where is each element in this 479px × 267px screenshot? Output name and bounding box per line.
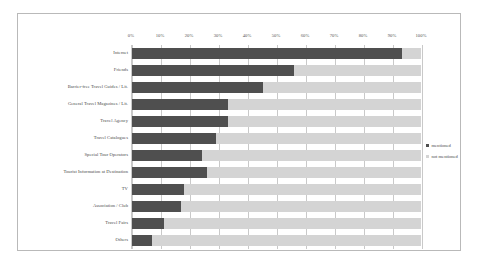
bar-segment-not-mentioned <box>262 82 422 93</box>
bar-segment-mentioned <box>132 99 228 110</box>
bar-segment-not-mentioned <box>183 184 421 195</box>
bar-segment-not-mentioned <box>180 201 421 212</box>
y-axis-category-labels: InternetFriendsBarrier-free Travel Guide… <box>36 45 128 249</box>
x-tick-label: 40% <box>243 33 252 38</box>
category-label: Others <box>36 237 128 242</box>
chart-page: 0%10%20%30%40%50%60%70%80%90%100% Intern… <box>0 0 479 267</box>
table-row <box>132 164 421 181</box>
bar-segment-mentioned <box>132 65 294 76</box>
table-row <box>132 198 421 215</box>
category-label: Travel Catalogues <box>36 135 128 140</box>
table-row <box>132 215 421 232</box>
category-label: General Travel Magazines / Lit. <box>36 101 128 106</box>
bar-segment-not-mentioned <box>401 48 421 59</box>
x-tick-label: 80% <box>359 33 368 38</box>
table-row <box>132 181 421 198</box>
x-axis-tick-labels: 0%10%20%30%40%50%60%70%80%90%100% <box>131 33 421 43</box>
bar-segment-mentioned <box>132 82 263 93</box>
category-label: Travel Fairs <box>36 220 128 225</box>
category-label: Special Tour Operators <box>36 152 128 157</box>
table-row <box>132 232 421 249</box>
x-tick-label: 60% <box>301 33 310 38</box>
bar-segment-not-mentioned <box>151 235 421 246</box>
bar-segment-not-mentioned <box>215 133 421 144</box>
bar-segment-not-mentioned <box>227 116 421 127</box>
chart-legend: mentionednot mentioned <box>426 141 476 163</box>
table-row <box>132 130 421 147</box>
category-label: Barrier-free Travel Guides / Lit. <box>36 84 128 89</box>
category-label: Tourist Information at Destination <box>36 169 128 174</box>
bar-segment-not-mentioned <box>206 167 421 178</box>
category-label: Friends <box>36 67 128 72</box>
legend-label: not mentioned <box>432 154 458 159</box>
bar-segment-mentioned <box>132 167 207 178</box>
x-tick-label: 10% <box>156 33 165 38</box>
table-row <box>132 113 421 130</box>
table-row <box>132 62 421 79</box>
plot-area <box>131 45 421 249</box>
legend-label: mentioned <box>432 143 451 148</box>
bar-segment-mentioned <box>132 235 152 246</box>
bar-segment-mentioned <box>132 133 216 144</box>
bar-segment-mentioned <box>132 48 402 59</box>
bar-segment-mentioned <box>132 116 228 127</box>
table-row <box>132 147 421 164</box>
legend-swatch-icon <box>426 155 429 158</box>
table-row <box>132 96 421 113</box>
x-tick-label: 0% <box>128 33 134 38</box>
x-tick-label: 50% <box>272 33 281 38</box>
bar-segment-not-mentioned <box>201 150 421 161</box>
category-label: Internet <box>36 50 128 55</box>
figure-frame: 0%10%20%30%40%50%60%70%80%90%100% Intern… <box>17 13 461 251</box>
x-tick-label: 30% <box>214 33 223 38</box>
category-label: Travel Agency <box>36 118 128 123</box>
bar-segment-mentioned <box>132 218 164 229</box>
bar-segment-mentioned <box>132 184 184 195</box>
x-tick-label: 90% <box>388 33 397 38</box>
legend-swatch-icon <box>426 144 429 147</box>
x-tick-label: 20% <box>185 33 194 38</box>
table-row <box>132 79 421 96</box>
legend-item: mentioned <box>426 141 476 150</box>
bar-segment-mentioned <box>132 150 202 161</box>
table-row <box>132 45 421 62</box>
bar-segment-not-mentioned <box>227 99 421 110</box>
gridline <box>422 45 423 249</box>
x-tick-label: 100% <box>415 33 426 38</box>
bar-rows <box>132 45 421 249</box>
category-label: TV <box>36 186 128 191</box>
bar-segment-not-mentioned <box>163 218 421 229</box>
bar-segment-not-mentioned <box>293 65 421 76</box>
x-tick-label: 70% <box>330 33 339 38</box>
legend-item: not mentioned <box>426 152 476 161</box>
category-label: Association / Club <box>36 203 128 208</box>
bar-segment-mentioned <box>132 201 181 212</box>
